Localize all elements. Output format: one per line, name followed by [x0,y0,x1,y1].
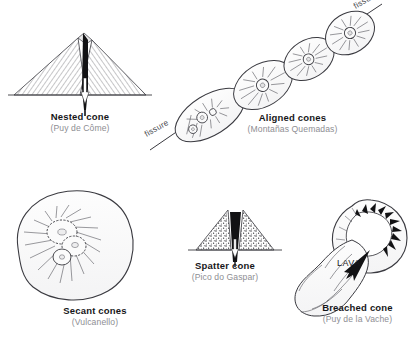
caption-locality: (Montañas Quemadas) [205,125,380,135]
caption-aligned-cones: Aligned cones (Montañas Quemadas) [205,113,380,135]
caption-title: Nested cone [0,112,160,123]
caption-locality: (Puy de Côme) [0,124,160,134]
secant-cones-artwork [17,191,133,300]
caption-title: Secant cones [0,306,190,317]
volcanic-cone-types-figure: Nested cone (Puy de Côme) Aligned cones … [0,0,419,340]
caption-locality: (Puy de la Vache) [296,315,419,325]
caption-title: Aligned cones [205,113,380,124]
caption-spatter-cone: Spatter cone (Pico do Gaspar) [155,261,295,283]
nested-cone-artwork [8,33,152,116]
caption-title: Spatter cone [155,261,295,272]
figure-artwork [0,0,419,340]
caption-title: Breached cone [296,303,419,314]
lava-label: LAVA [337,258,360,268]
caption-locality: (Pico do Gaspar) [155,273,295,283]
caption-locality: (Vulcanello) [0,318,190,328]
caption-breached-cone: Breached cone (Puy de la Vache) [296,303,419,325]
spatter-cone-artwork [188,210,282,267]
caption-nested-cone: Nested cone (Puy de Côme) [0,112,160,134]
caption-secant-cones: Secant cones (Vulcanello) [0,306,190,328]
